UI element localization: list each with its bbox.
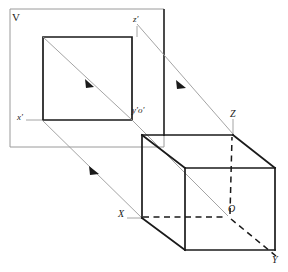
axis-label-o: O [228,204,235,214]
cube-hidden-edges [143,137,276,256]
ray-x-arrowhead [89,166,99,175]
axis-label-y-prime-o-prime: y′o′ [132,106,144,115]
axis-label-x-prime: x′ [17,113,23,122]
projected-square-diagonal [43,37,132,120]
cube-visible-edges [142,135,275,250]
axis-tick-group [26,26,233,218]
axis-label-z-prime: z′ [133,15,138,24]
projected-square [43,37,132,120]
plane-label-v: V [12,12,20,23]
axis-label-y: Y [272,255,278,265]
projection-ray-group [42,24,233,219]
axis-label-x: X [118,209,124,219]
diagram-canvas [0,0,288,272]
projection-diagram: V z′ x′ y′o′ Z X O Y [0,0,288,272]
ray-z-arrowhead [176,80,186,89]
ray-z-prime-to-z [137,24,233,134]
edge-top-right-diagonal [233,135,275,168]
axis-label-z: Z [230,109,236,119]
edge-bottom-left-diagonal [142,218,185,250]
